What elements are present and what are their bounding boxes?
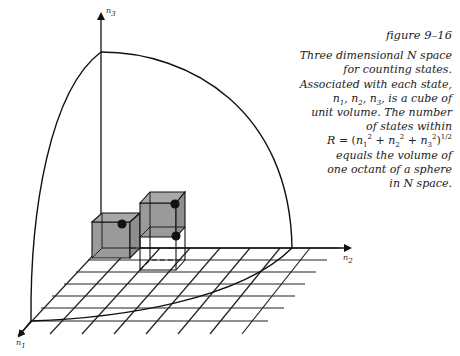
n-space-figure: n3 n2 n1 figure 9–16 Three dimensional N… [0,0,460,356]
n1-axis [19,321,31,336]
n1-label: n1 [16,338,26,347]
caption-line: Associated with each state, [282,78,452,92]
radius-formula: R = (n12 + n22 + n32)1/2 [282,134,452,148]
unit-cube-1 [92,213,140,258]
caption-line: unit volume. The number [282,106,452,120]
caption-line: one octant of a sphere [282,163,452,177]
n2-label: n2 [343,253,353,262]
caption-line: Three dimensional N space [282,49,452,63]
state-point [171,200,179,208]
caption-line: of states within [282,120,452,134]
caption-line: equals the volume of [282,149,452,163]
n3-label: n3 [106,6,116,15]
figure-caption: figure 9–16 Three dimensional N space fo… [282,28,452,191]
figure-title: figure 9–16 [282,28,452,42]
lattice-grid [18,248,340,336]
state-point [172,232,180,240]
caption-line: for counting states. [282,63,452,77]
caption-line-vars: n1, n2, n3, is a cube of [282,92,452,106]
state-point [118,220,126,228]
unit-cube-2 [140,192,185,270]
caption-line: in N space. [282,177,452,191]
